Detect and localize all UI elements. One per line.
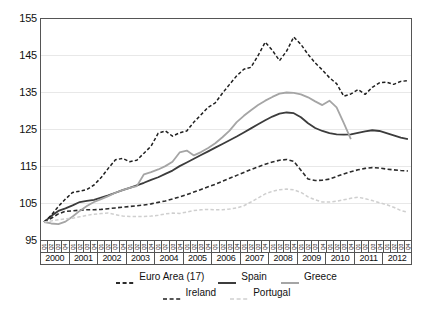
x-quarter-tick-label: Q4 <box>406 243 411 250</box>
x-quarter-tick-label: Q4 <box>377 243 382 250</box>
x-quarter-tick-label: Q4 <box>206 243 211 250</box>
plot-area <box>0 0 429 313</box>
x-quarter-tick-label: Q1 <box>156 243 161 250</box>
legend-line-swatch <box>229 289 249 297</box>
x-quarter-tick-label: Q2 <box>49 243 54 250</box>
x-quarter-tick-label: Q3 <box>142 243 147 250</box>
y-tick-label: 155 <box>3 13 37 24</box>
x-year-label: 2008 <box>269 252 298 265</box>
legend-row-secondary: IrelandPortugal <box>40 285 412 301</box>
x-quarter-tick-label: Q1 <box>127 243 132 250</box>
series-line-greece <box>44 93 351 225</box>
x-quarter-tick-label: Q1 <box>42 243 47 250</box>
x-year-label: 2007 <box>241 252 270 265</box>
y-axis-tick-labels: 15514513512511510595 <box>0 0 37 250</box>
series-line-spain <box>44 112 408 222</box>
line-chart: 15514513512511510595 Q1Q2Q3Q4Q1Q2Q3Q4Q1Q… <box>0 0 429 313</box>
x-quarter-tick-label: Q2 <box>306 243 311 250</box>
x-quarter-tick-label: Q1 <box>99 243 104 250</box>
legend-row-primary: Euro Area (17)SpainGreece <box>40 269 412 285</box>
x-year-label: 2000 <box>41 252 70 265</box>
x-quarter-tick-label: Q2 <box>163 243 168 250</box>
x-quarter-tick-label: Q2 <box>249 243 254 250</box>
x-quarter-tick-label: Q4 <box>291 243 296 250</box>
y-tick-label: 115 <box>3 161 37 172</box>
legend-label: Portugal <box>253 288 290 298</box>
x-year-label: 2005 <box>184 252 213 265</box>
x-quarter-tick-label: Q4 <box>320 243 325 250</box>
x-quarter-tick-label: Q4 <box>177 243 182 250</box>
x-quarter-tick-label: Q2 <box>277 243 282 250</box>
x-year-label: 2001 <box>70 252 99 265</box>
x-quarter-tick-label: Q3 <box>113 243 118 250</box>
chart-legend: Euro Area (17)SpainGreece IrelandPortuga… <box>40 269 412 309</box>
x-quarter-tick-label: Q3 <box>227 243 232 250</box>
x-quarter-tick-label: Q3 <box>370 243 375 250</box>
x-quarter-tick-label: Q2 <box>134 243 139 250</box>
legend-item-euro-area-17: Euro Area (17) <box>115 272 204 282</box>
legend-item-spain: Spain <box>217 272 267 282</box>
x-quarter-tick-label: Q1 <box>299 243 304 250</box>
x-quarter-tick-label: Q1 <box>70 243 75 250</box>
x-quarter-tick-label: Q4 <box>63 243 68 250</box>
legend-line-swatch <box>280 273 300 281</box>
x-year-label: 2010 <box>326 252 355 265</box>
x-quarter-tick-label: Q2 <box>192 243 197 250</box>
x-quarter-tick-label: Q4 <box>263 243 268 250</box>
y-tick-label: 95 <box>3 235 37 246</box>
x-quarter-tick-label: Q3 <box>84 243 89 250</box>
x-quarter-tick-label: Q3 <box>284 243 289 250</box>
legend-label: Euro Area (17) <box>139 272 204 282</box>
x-quarter-tick-label: Q2 <box>77 243 82 250</box>
legend-item-portugal: Portugal <box>229 288 290 298</box>
legend-item-ireland: Ireland <box>162 288 217 298</box>
x-quarter-tick-label: Q1 <box>327 243 332 250</box>
x-quarter-tick-label: Q4 <box>349 243 354 250</box>
x-quarter-tick-label: Q1 <box>213 243 218 250</box>
legend-item-greece: Greece <box>280 272 337 282</box>
legend-label: Spain <box>241 272 267 282</box>
x-quarter-tick-label: Q4 <box>92 243 97 250</box>
x-quarter-tick-label: Q2 <box>391 243 396 250</box>
y-tick-label: 135 <box>3 87 37 98</box>
y-tick-label: 145 <box>3 50 37 61</box>
x-quarter-tick-label: Q1 <box>184 243 189 250</box>
x-quarter-tick-label: Q1 <box>384 243 389 250</box>
x-quarter-tick-label: Q1 <box>270 243 275 250</box>
x-year-label: 2012 <box>383 252 412 265</box>
legend-label: Greece <box>304 272 337 282</box>
x-quarter-tick-label: Q4 <box>234 243 239 250</box>
y-tick-label: 105 <box>3 198 37 209</box>
x-quarter-tick-label: Q3 <box>313 243 318 250</box>
x-year-label: 2006 <box>212 252 241 265</box>
x-year-label: 2009 <box>298 252 327 265</box>
x-quarter-tick-label: Q3 <box>199 243 204 250</box>
x-quarter-tick-label: Q3 <box>170 243 175 250</box>
x-quarter-tick-label: Q2 <box>220 243 225 250</box>
x-year-label: 2004 <box>155 252 184 265</box>
x-year-label: 2011 <box>355 252 384 265</box>
x-quarter-tick-label: Q3 <box>256 243 261 250</box>
x-quarter-tick-label: Q3 <box>399 243 404 250</box>
x-quarter-tick-label: Q4 <box>120 243 125 250</box>
x-quarter-tick-label: Q3 <box>341 243 346 250</box>
series-line-portugal <box>44 189 408 222</box>
x-year-label: 2002 <box>98 252 127 265</box>
y-tick-label: 125 <box>3 124 37 135</box>
legend-label: Ireland <box>186 288 217 298</box>
legend-line-swatch <box>115 273 135 281</box>
legend-line-swatch <box>217 273 237 281</box>
x-quarter-tick-label: Q3 <box>56 243 61 250</box>
x-quarter-tick-label: Q1 <box>242 243 247 250</box>
x-quarter-tick-label: Q2 <box>106 243 111 250</box>
legend-line-swatch <box>162 289 182 297</box>
x-quarter-tick-label: Q2 <box>363 243 368 250</box>
x-year-label: 2003 <box>127 252 156 265</box>
series-line-euro-area-17 <box>44 159 408 222</box>
x-axis-year-labels: 2000200120022003200420052006200720082009… <box>40 252 412 265</box>
x-quarter-tick-label: Q1 <box>356 243 361 250</box>
x-quarter-tick-label: Q2 <box>334 243 339 250</box>
x-quarter-tick-label: Q4 <box>149 243 154 250</box>
